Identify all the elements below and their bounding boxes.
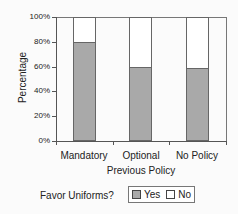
y-axis	[56, 17, 57, 142]
category-label: No Policy	[162, 150, 232, 161]
legend-swatch-no	[166, 190, 175, 199]
x-tick	[169, 141, 170, 145]
legend-swatch-yes	[132, 190, 141, 199]
bar-segment-yes	[187, 68, 208, 140]
bar-optional	[129, 17, 152, 141]
legend-label-no: No	[178, 189, 191, 200]
x-axis	[56, 141, 227, 142]
y-tick-label: 20%	[14, 112, 50, 120]
x-tick	[226, 141, 227, 145]
bar-segment-yes	[130, 67, 151, 140]
bar-segment-yes	[74, 42, 95, 140]
x-axis-title: Previous Policy	[91, 165, 191, 176]
x-tick	[113, 141, 114, 145]
y-axis-title: Percentage	[17, 48, 28, 108]
legend: Yes No	[128, 186, 195, 203]
bar-no-policy	[186, 17, 209, 141]
x-tick	[56, 141, 57, 145]
y-tick-label: 0%	[14, 137, 50, 145]
y-tick-label: 100%	[14, 13, 50, 21]
bar-mandatory	[73, 17, 96, 141]
y-tick-label: 80%	[14, 38, 50, 46]
legend-title: Favor Uniforms?	[40, 190, 114, 201]
legend-label-yes: Yes	[144, 189, 160, 200]
